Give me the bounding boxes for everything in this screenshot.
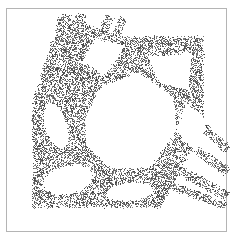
stipple-scatter-canvas (0, 0, 234, 240)
stipple-figure-root (0, 0, 234, 240)
